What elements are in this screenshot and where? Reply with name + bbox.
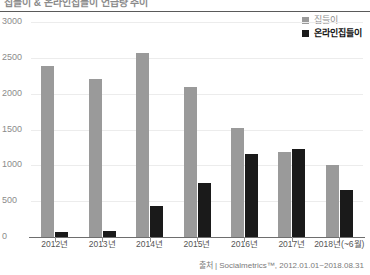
bar-series-b xyxy=(340,190,353,237)
bar-series-a xyxy=(231,128,244,237)
gridline xyxy=(31,94,363,95)
y-axis-tick-label: 3000 xyxy=(2,17,22,26)
source-note: 출처 | Socialmetrics™, 2012.01.01~2018.08.… xyxy=(199,259,364,270)
plot-area xyxy=(31,22,363,237)
bar-series-a xyxy=(326,165,339,237)
bar-series-b xyxy=(292,149,305,237)
gridline xyxy=(31,58,363,59)
bar-series-a xyxy=(136,53,149,237)
bar-series-a xyxy=(278,152,291,237)
bar-series-a xyxy=(41,66,54,237)
y-axis-tick-label: 500 xyxy=(2,196,17,205)
title-divider xyxy=(0,11,370,12)
bar-series-b xyxy=(55,232,68,237)
bar-series-a xyxy=(184,87,197,238)
gridline xyxy=(31,165,363,166)
y-axis-tick-label: 0 xyxy=(2,232,7,241)
gridline xyxy=(31,22,363,23)
y-axis-tick-label: 1000 xyxy=(2,160,22,169)
bar-series-b xyxy=(198,183,211,237)
chart-container: 집들이 & 온라인집들이 언급량 추이 집들이 온라인집들이 050010001… xyxy=(0,0,370,275)
gridline xyxy=(31,130,363,131)
bar-series-b xyxy=(150,206,163,237)
x-axis-tick-label: 2018년(~6월) xyxy=(311,240,367,249)
y-axis-tick-label: 1500 xyxy=(2,125,22,134)
y-axis-tick-label: 2000 xyxy=(2,89,22,98)
page-title: 집들이 & 온라인집들이 언급량 추이 xyxy=(4,0,148,9)
y-axis-tick-label: 2500 xyxy=(2,53,22,62)
bar-series-a xyxy=(89,79,102,237)
bar-series-b xyxy=(103,231,116,237)
chart-title-clipped: 집들이 & 온라인집들이 언급량 추이 xyxy=(4,0,254,10)
bar-series-b xyxy=(245,154,258,237)
